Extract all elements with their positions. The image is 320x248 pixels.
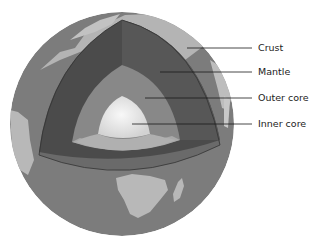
label-mantle: Mantle <box>258 66 290 78</box>
label-inner-core: Inner core <box>258 118 306 130</box>
label-outer-core: Outer core <box>258 92 309 104</box>
label-crust: Crust <box>258 42 283 54</box>
